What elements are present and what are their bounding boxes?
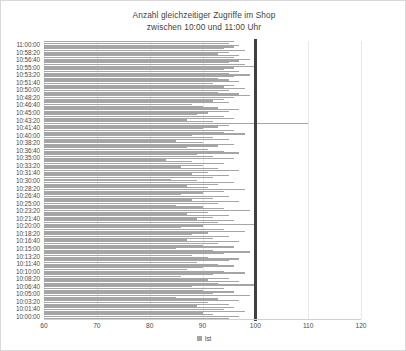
y-axis-tick-label: 10:25:00: [16, 199, 40, 206]
chart-title-line-2: zwischen 10:00 und 11:00 Uhr: [1, 22, 406, 34]
bar-series: [44, 41, 361, 319]
y-axis-tick-label: 10:15:00: [16, 245, 40, 252]
y-axis-tick-label: 10:13:20: [16, 252, 40, 259]
y-axis-tick-label: 10:20:00: [16, 222, 40, 229]
x-axis-tick-label: 110: [303, 322, 314, 329]
y-axis-tick-label: 10:53:20: [16, 71, 40, 78]
x-axis-tick-label: 80: [146, 322, 153, 329]
chart-container: Anzahl gleichzeitiger Zugriffe im Shop z…: [0, 0, 406, 351]
y-axis-tick-label: 10:28:20: [16, 184, 40, 191]
y-axis-tick-label: 10:26:40: [16, 192, 40, 199]
x-axis-line: [44, 319, 361, 320]
x-axis-tick-label: 100: [250, 322, 261, 329]
y-axis-tick-label: 10:16:40: [16, 237, 40, 244]
y-axis-tick-label: 10:48:20: [16, 93, 40, 100]
legend-label-ist: Ist: [205, 335, 212, 342]
y-axis-tick-label: 10:41:40: [16, 124, 40, 131]
gridline: [361, 41, 362, 319]
y-axis-tick-label: 11:00:00: [16, 41, 40, 48]
y-axis-tick-label: 10:06:40: [16, 282, 40, 289]
y-axis-tick-label: 10:56:40: [16, 56, 40, 63]
legend-swatch-ist: [197, 336, 202, 341]
y-axis-tick-label: 10:21:40: [16, 214, 40, 221]
y-axis-tick-label: 10:55:00: [16, 63, 40, 70]
threshold-line: [254, 39, 256, 321]
y-axis-tick-label: 10:18:20: [16, 229, 40, 236]
y-axis-tick-label: 10:00:00: [16, 313, 40, 320]
chart-legend: Ist: [1, 335, 406, 342]
y-axis-tick-label: 10:35:00: [16, 154, 40, 161]
plot-area: [44, 41, 361, 319]
y-axis-tick-label: 10:33:20: [16, 161, 40, 168]
y-axis-tick-label: 10:38:20: [16, 139, 40, 146]
chart-title: Anzahl gleichzeitiger Zugriffe im Shop z…: [1, 10, 406, 33]
chart-title-line-1: Anzahl gleichzeitiger Zugriffe im Shop: [1, 10, 406, 22]
y-axis-tick-label: 10:03:20: [16, 297, 40, 304]
y-axis-tick-label: 10:46:40: [16, 101, 40, 108]
y-axis-tick-label: 10:01:40: [16, 305, 40, 312]
x-axis-tick-label: 60: [40, 322, 47, 329]
y-axis-tick-label: 10:40:00: [16, 131, 40, 138]
y-axis-tick-label: 10:11:40: [16, 260, 40, 267]
y-axis-tick-label: 10:43:20: [16, 116, 40, 123]
y-axis-tick-label: 10:45:00: [16, 109, 40, 116]
x-axis-tick-label: 70: [93, 322, 100, 329]
y-axis-tick-label: 10:05:00: [16, 290, 40, 297]
y-axis-tick-label: 10:23:20: [16, 207, 40, 214]
y-axis-tick-label: 10:51:40: [16, 78, 40, 85]
x-axis-tick-label: 120: [355, 322, 366, 329]
y-axis: 11:00:0010:58:2010:56:4010:55:0010:53:20…: [1, 41, 42, 319]
y-axis-tick-label: 10:36:40: [16, 146, 40, 153]
y-axis-tick-label: 10:30:00: [16, 177, 40, 184]
x-axis-tick-label: 90: [199, 322, 206, 329]
y-axis-tick-label: 10:58:20: [16, 48, 40, 55]
y-axis-tick-label: 10:50:00: [16, 86, 40, 93]
y-axis-tick-label: 10:31:40: [16, 169, 40, 176]
x-axis: 60708090100110120: [44, 322, 361, 334]
y-axis-tick-label: 10:08:20: [16, 275, 40, 282]
y-axis-tick-label: 10:10:00: [16, 267, 40, 274]
